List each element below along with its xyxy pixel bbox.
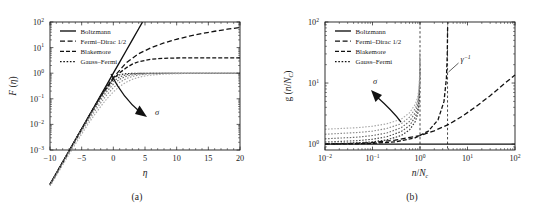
- gamma-inverse-annotation: γ−1: [449, 54, 471, 72]
- panel-a-caption: (a): [0, 192, 274, 202]
- sigma-arrow-head: [135, 106, 147, 118]
- legend-label-2: Fermi–Dirac 1/2: [356, 38, 402, 45]
- legend-label-4: Gauss–Fermi: [356, 58, 393, 65]
- xtick-label: 0: [111, 154, 115, 163]
- legend-label-2: Fermi–Dirac 1/2: [81, 38, 127, 45]
- xtick-label: 102: [510, 153, 521, 163]
- series-5: [325, 62, 420, 142]
- xtick-label: 10−2: [318, 153, 332, 163]
- sigma-label: σ: [373, 77, 378, 86]
- xtick-label: −10: [44, 154, 57, 163]
- y-axis-title: F (η): [8, 76, 19, 96]
- series-3: [50, 58, 240, 185]
- x-axis-title: n/Nc: [412, 168, 429, 179]
- ytick-label: 10−1: [30, 93, 44, 103]
- sigma-arrow-curve: [376, 96, 401, 122]
- ytick-label: 102: [33, 17, 44, 27]
- figure-container: −10−50510152010−310−210−1100101102ηF (η)…: [0, 0, 549, 204]
- legend-label-1: Boltzmann: [356, 28, 387, 35]
- plot-frame: [50, 22, 240, 150]
- xtick-label: 100: [415, 153, 426, 163]
- xtick-label: 20: [236, 154, 244, 163]
- sigma-arrow-curve: [111, 74, 140, 112]
- xtick-label: 10−1: [365, 153, 379, 163]
- ytick-label: 100: [33, 68, 44, 78]
- legend-label-4: Gauss–Fermi: [81, 58, 118, 65]
- legend-label-3: Blakemore: [81, 48, 111, 55]
- x-axis-title: η: [143, 168, 148, 178]
- panel-b: 10−210−1100101102100101102n/Ncg (n/NC)Bo…: [275, 0, 549, 204]
- panel-a: −10−50510152010−310−210−1100101102ηF (η)…: [0, 0, 274, 204]
- sigma-annotation: σ: [371, 77, 401, 122]
- xtick-label: 5: [143, 154, 147, 163]
- plot-a-canvas: −10−50510152010−310−210−1100101102ηF (η)…: [0, 0, 274, 186]
- gamma-leader-line: [449, 63, 459, 72]
- y-axis-title: g (n/NC): [283, 70, 294, 101]
- legend-label-1: Boltzmann: [81, 28, 112, 35]
- xtick-label: 15: [204, 154, 212, 163]
- ytick-label: 10−3: [30, 145, 44, 155]
- ytick-label: 101: [308, 78, 319, 88]
- xtick-label: 101: [462, 153, 473, 163]
- gamma-inverse-label: γ−1: [461, 54, 471, 64]
- panel-b-caption: (b): [275, 192, 549, 202]
- legend-label-3: Blakemore: [356, 48, 386, 55]
- xtick-label: 10: [173, 154, 181, 163]
- series-7: [325, 54, 420, 134]
- sigma-label: σ: [155, 108, 160, 117]
- ytick-label: 101: [33, 42, 44, 52]
- plot-b-canvas: 10−210−1100101102100101102n/Ncg (n/NC)Bo…: [275, 0, 549, 186]
- ytick-label: 10−2: [30, 119, 44, 129]
- ytick-label: 102: [308, 17, 319, 27]
- xtick-label: −5: [77, 154, 86, 163]
- ytick-label: 100: [308, 139, 319, 149]
